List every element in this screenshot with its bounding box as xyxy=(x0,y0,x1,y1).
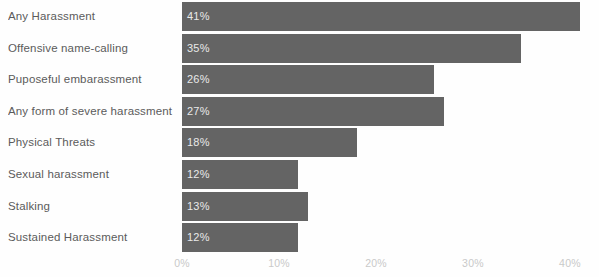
bar-value-label: 13% xyxy=(187,192,210,221)
x-axis-tick-label: 30% xyxy=(462,257,484,269)
category-axis-labels: Any HarassmentOffensive name-callingPupo… xyxy=(0,0,182,252)
bar: 35% xyxy=(182,34,521,63)
category-label: Physical Threats xyxy=(8,128,180,157)
category-label: Puposeful embarassment xyxy=(8,65,180,94)
x-axis-tick-label: 10% xyxy=(268,257,290,269)
bar: 13% xyxy=(182,192,308,221)
horizontal-bar-chart: Any HarassmentOffensive name-callingPupo… xyxy=(0,0,599,277)
category-label: Any form of severe harassment xyxy=(8,97,180,126)
x-axis-tick-label: 40% xyxy=(559,257,581,269)
bar-value-label: 35% xyxy=(187,34,210,63)
bar-value-label: 27% xyxy=(187,97,210,126)
bar-value-label: 26% xyxy=(187,65,210,94)
value-axis: 0%10%20%30%40% xyxy=(182,252,599,277)
bar: 12% xyxy=(182,223,298,252)
category-label: Sustained Harassment xyxy=(8,223,180,252)
bar: 26% xyxy=(182,65,434,94)
chart-screenshot: Any HarassmentOffensive name-callingPupo… xyxy=(0,0,599,277)
bar: 27% xyxy=(182,97,444,126)
category-label: Stalking xyxy=(8,192,180,221)
bar: 41% xyxy=(182,2,580,31)
bar-value-label: 41% xyxy=(187,2,210,31)
x-axis-tick-label: 0% xyxy=(174,257,190,269)
plot-area: 41%35%26%27%18%12%13%12% xyxy=(182,0,599,252)
bar: 18% xyxy=(182,128,357,157)
category-label: Offensive name-calling xyxy=(8,34,180,63)
x-axis-tick-label: 20% xyxy=(365,257,387,269)
category-label: Sexual harassment xyxy=(8,160,180,189)
category-label: Any Harassment xyxy=(8,2,180,31)
bar-value-label: 12% xyxy=(187,160,210,189)
bar-value-label: 18% xyxy=(187,128,210,157)
bar-value-label: 12% xyxy=(187,223,210,252)
bar: 12% xyxy=(182,160,298,189)
